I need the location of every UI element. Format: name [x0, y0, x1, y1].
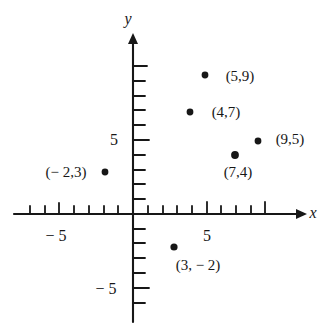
- y-axis-arrowhead: [128, 33, 138, 44]
- point-label-7-4: (7,4): [224, 165, 253, 180]
- point-label-3--2: (3, − 2): [176, 258, 221, 273]
- point-label--2-3: (− 2,3): [46, 165, 87, 180]
- data-point-4-7: [187, 109, 194, 116]
- y-tick-label-negative-five: − 5: [95, 281, 116, 297]
- coordinate-plane-figure: y x − 5 5 5 − 5 (5,9) (4,7) (9,5) (7,4) …: [0, 0, 322, 331]
- data-point-3--2: [170, 243, 177, 250]
- data-points: [102, 72, 262, 251]
- y-axis-label: y: [124, 11, 131, 27]
- x-axis-label: x: [309, 205, 316, 221]
- y-axis-ticks: [133, 66, 149, 303]
- data-point-9-5: [255, 138, 262, 145]
- point-label-4-7: (4,7): [212, 105, 241, 120]
- x-axis-arrowhead: [296, 209, 307, 219]
- x-tick-label-negative-five: − 5: [45, 228, 66, 244]
- point-label-9-5: (9,5): [276, 132, 305, 147]
- x-tick-label-positive-five: 5: [203, 228, 211, 244]
- data-point-5-9: [202, 72, 209, 79]
- data-point--2-3: [102, 169, 109, 176]
- x-axis-ticks: [30, 202, 265, 214]
- x-axis-group: [14, 202, 307, 219]
- point-label-5-9: (5,9): [226, 69, 255, 84]
- y-axis-group: [128, 33, 149, 322]
- y-tick-label-positive-five: 5: [110, 132, 118, 148]
- data-point-7-4: [231, 151, 239, 159]
